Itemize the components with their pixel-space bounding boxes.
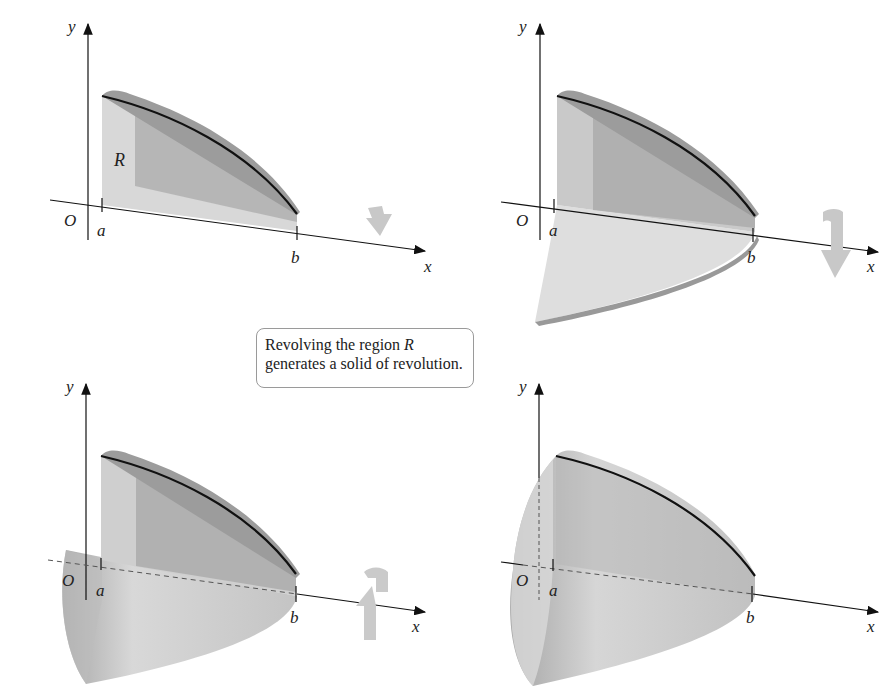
x-axis <box>753 594 878 612</box>
caption-line-1: Revolving the region R <box>265 335 465 354</box>
label-origin: O <box>62 571 74 590</box>
label-y: y <box>66 17 76 36</box>
label-origin: O <box>516 571 528 590</box>
label-a: a <box>549 581 558 600</box>
label-b: b <box>746 608 755 627</box>
label-x: x <box>866 617 875 636</box>
further-revolution-diagram: y x O a b <box>0 360 443 699</box>
panel-further-revolution: y x O a b <box>0 360 443 699</box>
label-a: a <box>96 581 105 600</box>
region-diagram: y x O a b R <box>0 0 443 300</box>
label-x: x <box>423 257 432 276</box>
caption-var-r: R <box>404 336 414 353</box>
solid-of-revolution-diagram: y x O a b <box>443 360 886 699</box>
label-region-r: R <box>113 150 125 170</box>
panel-region-r: y x O a b R <box>0 0 443 300</box>
label-x: x <box>866 257 875 276</box>
label-a: a <box>97 221 106 240</box>
panel-partial-revolution: y x O a b <box>443 0 886 360</box>
arrow-down-icon <box>366 206 392 236</box>
label-b: b <box>747 248 756 267</box>
rotate-around-axis-icon <box>356 568 388 641</box>
curved-arrow-down-icon <box>821 209 851 278</box>
label-a: a <box>549 221 558 240</box>
label-x: x <box>411 617 420 636</box>
partial-revolution-diagram: y x O a b <box>443 0 886 360</box>
label-y: y <box>517 377 527 396</box>
label-b: b <box>291 248 300 267</box>
label-origin: O <box>516 211 528 230</box>
label-y: y <box>64 377 74 396</box>
label-y: y <box>517 17 527 36</box>
caption-line-1-text: Revolving the region <box>265 336 404 353</box>
label-b: b <box>290 608 299 627</box>
panel-solid-of-revolution: y x O a b <box>443 360 886 699</box>
label-origin: O <box>64 211 76 230</box>
